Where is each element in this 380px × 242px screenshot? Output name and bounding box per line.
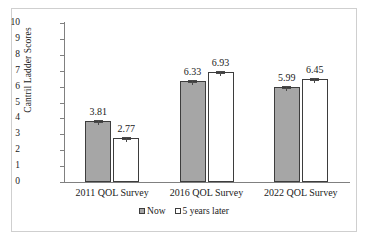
y-tick-label: 10 <box>0 18 20 28</box>
bar-value-label: 2.77 <box>105 124 147 134</box>
error-bar <box>122 137 131 140</box>
error-bar <box>282 86 291 89</box>
y-tick-label: 0 <box>0 177 20 187</box>
y-tick-label: 1 <box>0 161 20 171</box>
y-tick-label: 7 <box>0 66 20 76</box>
legend-swatch-icon <box>175 208 181 214</box>
legend-label: Now <box>147 206 165 216</box>
plot-area: 3.812.776.336.935.996.45 <box>65 23 348 182</box>
bar-value-label: 6.93 <box>200 58 242 68</box>
y-tick-mark <box>60 182 65 183</box>
legend-swatch-icon <box>139 208 145 214</box>
error-bar <box>310 78 319 81</box>
y-axis-title: Cantril Ladder Scores <box>23 10 33 130</box>
bar-now <box>180 81 206 182</box>
error-bar <box>94 120 103 123</box>
error-bar <box>216 71 225 74</box>
legend-item: 5 years later <box>175 206 229 216</box>
chart-figure: Cantril Ladder Scores 109876543210 3.812… <box>11 8 357 232</box>
y-tick-label: 6 <box>0 82 20 92</box>
bar-later <box>113 138 139 182</box>
y-tick-label: 9 <box>0 34 20 44</box>
x-axis-line <box>65 182 350 183</box>
x-category-label: 2022 QOL Survey <box>246 187 356 199</box>
bar-now <box>274 87 300 182</box>
error-bar <box>188 80 197 83</box>
bar-value-label: 3.81 <box>77 107 119 117</box>
y-tick-label: 5 <box>0 98 20 108</box>
legend-item: Now <box>139 206 165 216</box>
bar-value-label: 6.45 <box>294 65 336 75</box>
y-tick-label: 3 <box>0 129 20 139</box>
y-tick-label: 4 <box>0 113 20 123</box>
y-tick-label: 8 <box>0 50 20 60</box>
y-tick-label: 2 <box>0 145 20 155</box>
bar-later <box>208 72 234 182</box>
bar-later <box>302 79 328 182</box>
legend-label: 5 years later <box>183 206 229 216</box>
chart-legend: Now5 years later <box>12 206 356 216</box>
